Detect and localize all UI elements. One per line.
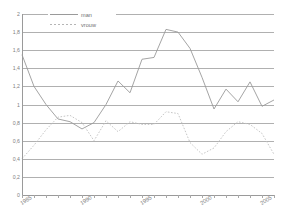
series-line-vrouw <box>22 112 274 159</box>
x-axis-tick <box>46 195 47 198</box>
series-line-man <box>22 29 274 129</box>
legend: man vrouw <box>48 10 116 32</box>
x-axis-tick <box>70 195 71 198</box>
x-axis-tick <box>190 195 191 198</box>
y-axis-tick-label: 1,8 <box>0 29 20 35</box>
legend-label-man: man <box>81 10 92 20</box>
plot-area <box>22 14 274 195</box>
legend-label-vrouw: vrouw <box>81 20 96 30</box>
y-axis-tick-label: 0,2 <box>0 174 20 180</box>
x-axis-tick <box>154 195 155 198</box>
line-chart: 21,81,61,41,210,80,60,40,20 198519901995… <box>0 0 284 220</box>
legend-item-vrouw: vrouw <box>48 20 116 30</box>
y-axis-tick-labels: 21,81,61,41,210,80,60,40,20 <box>0 0 20 220</box>
y-axis-tick-label: 1 <box>0 102 20 108</box>
y-axis-tick-label: 0,8 <box>0 120 20 126</box>
y-axis-tick-label: 0,6 <box>0 138 20 144</box>
x-axis-tick <box>166 195 167 198</box>
x-axis-tick <box>94 195 95 198</box>
y-axis-tick-label: 1,2 <box>0 83 20 89</box>
legend-swatch-man-icon <box>50 14 78 15</box>
x-axis-tick <box>118 195 119 198</box>
legend-item-man: man <box>48 10 116 20</box>
x-axis-tick <box>130 195 131 198</box>
x-axis-tick <box>250 195 251 198</box>
x-axis-tick <box>214 195 215 198</box>
x-axis-tick <box>226 195 227 198</box>
x-axis-tick <box>58 195 59 198</box>
x-axis-tick <box>34 195 35 198</box>
y-axis-tick-label: 1,6 <box>0 47 20 53</box>
x-axis-tick <box>274 195 275 198</box>
x-axis-tick <box>106 195 107 198</box>
x-axis-tick <box>178 195 179 198</box>
y-axis-line <box>22 14 23 196</box>
y-axis-tick-label: 0,4 <box>0 156 20 162</box>
y-axis-tick-label: 2 <box>0 11 20 17</box>
x-axis-tick <box>238 195 239 198</box>
series-lines <box>22 14 274 195</box>
y-axis-tick-label: 0 <box>0 192 20 198</box>
y-axis-tick-label: 1,4 <box>0 65 20 71</box>
legend-swatch-vrouw-icon <box>50 24 78 25</box>
